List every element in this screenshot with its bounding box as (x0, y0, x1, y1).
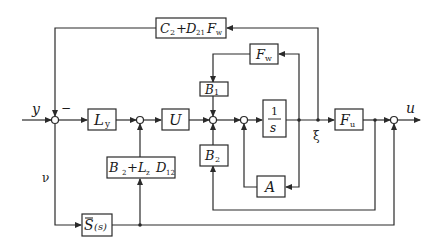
summing-junction-2 (137, 117, 144, 124)
block-ly: L y (88, 109, 116, 130)
summing-junction-3 (210, 117, 217, 124)
branch-dot (297, 118, 301, 122)
block-b2-lz-d12: B 2 + L z D 12 (107, 157, 175, 178)
wire-a-j4 (244, 124, 257, 187)
block-b2: B 2 (200, 145, 228, 166)
branch-dot-xi (316, 118, 320, 122)
c2-sub: 2 (170, 28, 175, 37)
block-b2-sub: 2 (215, 155, 220, 164)
block-b2-label: B (204, 148, 215, 163)
d12-sub: 12 (166, 169, 175, 177)
block-b1: B 1 (200, 82, 228, 97)
c2-label: C (160, 21, 170, 36)
b2-sub: 2 (122, 169, 126, 177)
b2-label: B (108, 160, 119, 175)
block-fu: F u (335, 109, 363, 130)
plus-sign: + (127, 160, 138, 175)
block-b1-label: B (204, 83, 214, 97)
block-u-label: U (169, 111, 183, 129)
integrator-denominator: s (270, 121, 276, 135)
signal-xi-label: ξ (313, 129, 320, 143)
wire-nu-sbar (55, 124, 81, 225)
branch-dot (373, 118, 377, 122)
sbar-label: S (84, 217, 94, 233)
block-fw-sub: w (265, 54, 272, 63)
block-sbar: S (s) (82, 214, 112, 236)
block-b1-sub: 1 (214, 88, 219, 97)
sbar-arg: (s) (94, 221, 107, 232)
d21-sub: 21 (196, 29, 205, 37)
block-a: A (257, 176, 285, 197)
lz-sub: z (146, 169, 150, 177)
block-fu-sub: u (350, 120, 355, 129)
branch-dot (138, 223, 142, 227)
summing-junction-1 (52, 117, 59, 124)
summing-junction-5 (391, 117, 398, 124)
block-fw: F w (250, 44, 278, 64)
integrator-numerator: 1 (271, 105, 278, 118)
summing-junction-4 (241, 117, 248, 124)
block-integrator: 1 s (263, 100, 286, 137)
signal-u-label: u (406, 100, 415, 116)
block-u: U (162, 109, 189, 130)
wire-xi-a (286, 120, 299, 187)
block-c2-d21-fw: C 2 + D 21 F w (156, 18, 226, 38)
wire-fw-b1 (213, 54, 250, 82)
wire-u-b2 (213, 120, 375, 210)
block-ly-sub: y (104, 119, 111, 129)
block-diagram: L y U B 1 B 2 1 s F u F w A C 2 + (0, 0, 443, 252)
signal-y-label: y (31, 101, 41, 117)
fw-sub: w (216, 29, 222, 37)
signal-nu-label: ν (42, 171, 49, 185)
block-a-label: A (263, 179, 275, 195)
minus-sign: − (61, 101, 71, 115)
block-ly-label: L (93, 111, 104, 129)
